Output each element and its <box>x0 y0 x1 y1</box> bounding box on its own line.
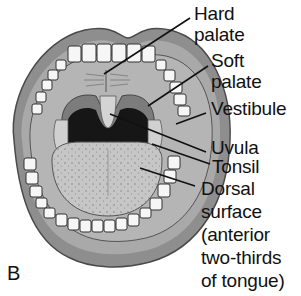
label-uvula: Uvula <box>211 138 259 157</box>
label-soft-palate: Soft palate <box>211 51 262 91</box>
oral-cavity-diagram: Hard palate Soft palate Vestibule Uvula … <box>0 0 301 296</box>
label-line: Vestibule <box>211 99 286 118</box>
label-line: Soft <box>211 51 262 70</box>
label-vestibule: Vestibule <box>211 99 286 118</box>
label-line: Dorsal <box>201 177 285 200</box>
label-tonsil: Tonsil <box>212 157 259 176</box>
label-line: surface <box>201 200 285 223</box>
label-line: Hard <box>194 4 245 23</box>
label-line: palate <box>211 72 262 91</box>
label-line: palate <box>194 25 245 44</box>
label-hard-palate: Hard palate <box>194 4 245 44</box>
label-line: Tonsil <box>212 157 259 176</box>
label-line: of tongue) <box>201 269 285 292</box>
label-line: (anterior <box>201 223 285 246</box>
label-line: two-thirds <box>201 246 285 269</box>
label-line: Uvula <box>211 138 259 157</box>
panel-letter: B <box>7 262 20 285</box>
label-dorsal-surface: Dorsal surface (anterior two-thirds of t… <box>201 177 285 292</box>
